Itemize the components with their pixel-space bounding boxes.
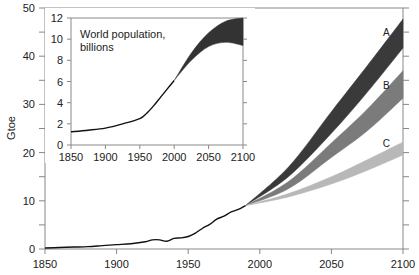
inset-y-tick-label: 6: [57, 76, 63, 88]
scenario-label-a: A: [383, 27, 390, 38]
scenario-label-b: B: [383, 80, 390, 91]
y-tick-label: 10: [23, 195, 35, 207]
y-tick-label: 0: [29, 243, 35, 255]
inset-title-line1: World population,: [80, 28, 165, 40]
x-tick-label: 2050: [319, 258, 343, 270]
energy-population-chart: 185019001950200020502100 01020304050 ABC…: [0, 0, 419, 275]
inset-y-tick-label: 12: [51, 12, 63, 24]
y-tick-label: 50: [23, 2, 35, 14]
x-tick-label: 1950: [176, 258, 200, 270]
energy-history-line: [45, 206, 245, 248]
x-tick-label: 1850: [33, 258, 57, 270]
x-tick-label: 2100: [391, 258, 415, 270]
x-tick-label: 1900: [104, 258, 128, 270]
inset-plot: 185019001950200020502100 024681012 World…: [45, 8, 255, 163]
inset-y-tick-label: 0: [57, 139, 63, 151]
x-tick-label: 2000: [248, 258, 272, 270]
inset-x-tick-label: 1950: [128, 151, 152, 163]
inset-y-tick-label: 4: [57, 97, 63, 109]
scenario-bands: [245, 19, 403, 206]
y-tick-label: 40: [23, 50, 35, 62]
inset-x-tick-label: 2050: [196, 151, 220, 163]
inset-title-line2: billions: [80, 41, 114, 53]
inset-y-tick-label: 8: [57, 54, 63, 66]
main-y-axis-label: Gtoe: [5, 116, 17, 140]
main-x-axis: 185019001950200020502100: [33, 249, 415, 270]
inset-x-tick-label: 2000: [162, 151, 186, 163]
inset-y-tick-label: 2: [57, 118, 63, 130]
inset-y-tick-label: 10: [51, 33, 63, 45]
inset-x-tick-label: 2100: [231, 151, 255, 163]
inset-x-tick-label: 1900: [93, 151, 117, 163]
scenario-label-c: C: [383, 138, 390, 149]
y-tick-label: 20: [23, 147, 35, 159]
inset-x-tick-label: 1850: [59, 151, 83, 163]
y-tick-label: 30: [23, 98, 35, 110]
